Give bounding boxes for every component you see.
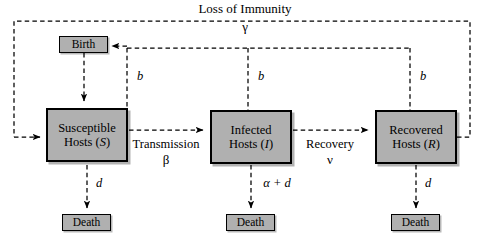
node-death-susceptible-label: Death (73, 216, 100, 229)
label-b-rate-susceptible: b (137, 70, 143, 84)
label-d-rate-susceptible: d (96, 177, 102, 191)
label-transmission: Transmission (133, 138, 200, 152)
label-alpha-plus-d-rate: α + d (263, 177, 291, 191)
node-death-infected-label: Death (237, 216, 264, 229)
node-birth-label: Birth (72, 38, 96, 51)
node-recovered-line1: Recovered (389, 123, 442, 137)
label-b-rate-infected: b (258, 70, 264, 84)
node-death-infected[interactable]: Death (226, 214, 275, 231)
label-beta-rate: β (163, 153, 170, 167)
node-birth[interactable]: Birth (59, 36, 108, 53)
node-susceptible-line1: Susceptible (58, 121, 116, 135)
label-loss-of-immunity: Loss of Immunity (198, 2, 291, 16)
node-death-susceptible[interactable]: Death (62, 214, 111, 231)
node-recovered-line2: Hosts (R) (392, 137, 440, 151)
node-infected-hosts[interactable]: Infected Hosts (I) (210, 110, 292, 164)
node-infected-line2: Hosts (I) (229, 137, 273, 151)
label-recovery: Recovery (306, 138, 354, 152)
node-recovered-symbol: R (428, 137, 436, 151)
label-gamma-rate: γ (242, 20, 248, 34)
node-susceptible-line2: Hosts (S) (64, 135, 110, 149)
node-recovered-hosts[interactable]: Recovered Hosts (R) (375, 110, 457, 164)
label-nu-rate: ν (327, 153, 333, 167)
node-death-recovered-label: Death (402, 216, 429, 229)
node-infected-line1: Infected (231, 123, 272, 137)
label-d-rate-recovered: d (425, 177, 431, 191)
node-death-recovered[interactable]: Death (391, 214, 440, 231)
sir-model-diagram: Birth Susceptible Hosts (S) Infected Hos… (0, 0, 484, 250)
node-susceptible-hosts[interactable]: Susceptible Hosts (S) (46, 108, 128, 162)
label-b-rate-recovered: b (420, 70, 426, 84)
